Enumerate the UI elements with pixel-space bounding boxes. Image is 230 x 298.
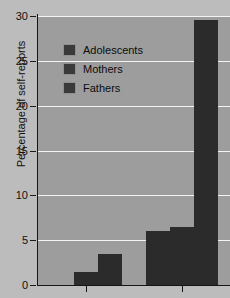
bar [170,227,194,285]
y-axis-tick-label: 0 [4,279,28,291]
y-axis-tick-label: 30 [4,10,28,22]
x-axis-tick-mark [182,286,183,292]
y-axis-tick-label: 15 [4,145,28,157]
y-axis-tick-label: 10 [4,189,28,201]
y-axis-tick-mark [30,285,36,286]
y-axis-tick-label: 5 [4,234,28,246]
y-axis-tick-mark [30,106,36,107]
chart-figure: Percentage of self-reports 051015202530 … [0,0,230,298]
y-axis-tick-mark [30,16,36,17]
chart-legend: AdolescentsMothersFathers [63,41,143,98]
y-axis-tick-label: 25 [4,55,28,67]
y-axis-tick-mark [30,61,36,62]
y-axis-tick-mark [30,151,36,152]
x-axis-line [37,285,230,286]
legend-item-label: Adolescents [83,44,143,56]
y-axis-tick-labels: 051015202530 [0,0,38,298]
legend-swatch-adolescents [63,44,76,56]
legend-item-label: Fathers [83,82,120,94]
y-axis-tick-label: 20 [4,100,28,112]
bar [194,20,218,285]
x-axis-tick-mark [86,286,87,292]
bar [74,272,98,285]
bar [98,254,122,285]
legend-item: Fathers [63,79,143,96]
legend-item: Adolescents [63,41,143,58]
legend-swatch-fathers [63,82,76,94]
bar [146,231,170,285]
y-axis-tick-mark [30,240,36,241]
legend-item: Mothers [63,60,143,77]
legend-item-label: Mothers [83,63,123,75]
y-axis-line [37,14,38,286]
y-axis-tick-mark [30,195,36,196]
gridline [38,16,230,17]
legend-swatch-mothers [63,63,76,75]
